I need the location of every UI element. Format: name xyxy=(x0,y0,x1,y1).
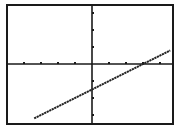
y-tick xyxy=(92,46,94,48)
x-tick xyxy=(108,62,110,64)
x-tick xyxy=(23,62,25,64)
y-tick xyxy=(92,12,94,14)
y-tick xyxy=(92,29,94,31)
y-tick xyxy=(92,114,94,116)
x-tick xyxy=(125,62,127,64)
x-tick xyxy=(74,62,76,64)
x-tick xyxy=(57,62,59,64)
y-tick xyxy=(92,80,94,82)
y-tick xyxy=(92,97,94,99)
x-tick xyxy=(40,62,42,64)
screen-background xyxy=(0,0,180,133)
graphing-calculator-screen xyxy=(0,0,180,133)
x-tick xyxy=(159,62,161,64)
